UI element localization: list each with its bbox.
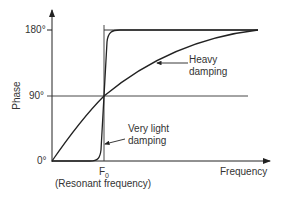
tick-0: 0° bbox=[37, 155, 47, 166]
tick-180: 180° bbox=[25, 24, 46, 35]
resonant-frequency-label: (Resonant frequency) bbox=[55, 178, 151, 189]
x-axis-label: Frequency bbox=[220, 166, 267, 177]
phase-frequency-chart: 180° 90° 0° Phase F0 (Resonant frequency… bbox=[0, 0, 281, 202]
light-damping-label-1: Very light bbox=[128, 123, 169, 134]
light-damping-label-2: damping bbox=[128, 135, 166, 146]
heavy-damping-label-1: Heavy bbox=[189, 54, 217, 65]
y-axis-label: Phase bbox=[11, 81, 22, 111]
light-damping-pointer bbox=[105, 139, 125, 144]
tick-90: 90° bbox=[29, 90, 44, 101]
heavy-damping-label-2: damping bbox=[189, 66, 227, 77]
